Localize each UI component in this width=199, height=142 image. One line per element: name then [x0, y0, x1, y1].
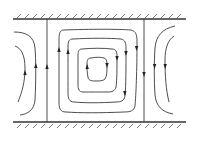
right-curve-inner: [165, 36, 174, 102]
central-loop-3: [78, 48, 117, 92]
central-cell: [57, 29, 138, 113]
right-curve-outer: [154, 26, 175, 114]
arrow-up-icon: [23, 70, 26, 75]
arrow-down-icon: [123, 91, 126, 96]
top-wall: [13, 14, 186, 19]
arrow-up-icon: [34, 63, 37, 68]
arrow-down-icon: [115, 56, 118, 61]
left-divider: [45, 19, 48, 122]
right-partial-cell: [153, 26, 175, 114]
central-loop-4: [87, 57, 107, 81]
arrow-down-icon: [124, 51, 127, 56]
left-curve-inner: [15, 46, 25, 102]
arrow-down-icon: [153, 64, 156, 69]
arrow-down-icon: [105, 63, 108, 68]
bottom-wall-hatching: [17, 124, 181, 128]
arrow-down-icon: [135, 46, 138, 51]
arrow-up-icon: [57, 47, 60, 52]
arrow-down-icon: [142, 72, 145, 77]
central-loop-1: [59, 29, 137, 113]
streamline-cell-diagram: [0, 0, 199, 142]
arrow-up-icon: [66, 49, 69, 54]
top-wall-hatching: [17, 14, 181, 18]
bottom-wall: [13, 122, 186, 128]
arrow-up-icon: [45, 64, 48, 69]
left-partial-cell: [14, 32, 38, 115]
right-divider: [142, 19, 145, 122]
arrow-up-icon: [86, 64, 89, 69]
arrow-down-icon: [164, 64, 167, 69]
